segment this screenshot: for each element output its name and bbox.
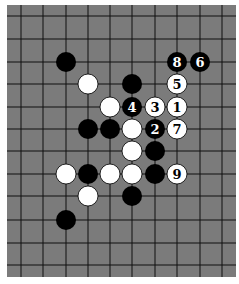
white-stone: 5 <box>167 74 187 94</box>
black-stone-circle <box>78 164 98 184</box>
black-stone: 4 <box>122 97 142 117</box>
black-stone-circle <box>56 210 76 230</box>
black-stone: 6 <box>190 52 210 72</box>
move-number-label: 4 <box>127 100 136 115</box>
move-number-label: 7 <box>172 122 181 137</box>
black-stone <box>145 141 165 161</box>
board-background <box>7 5 236 277</box>
move-number-label: 2 <box>150 122 159 137</box>
white-stone: 3 <box>145 97 165 117</box>
black-stone <box>122 74 142 94</box>
go-board: 865431279 <box>0 0 239 284</box>
black-stone-circle <box>100 119 120 139</box>
white-stone-circle <box>56 164 76 184</box>
black-stone-circle <box>145 164 165 184</box>
black-stone <box>78 119 98 139</box>
white-stone-circle <box>122 164 142 184</box>
black-stone <box>56 52 76 72</box>
black-stone: 8 <box>167 52 187 72</box>
move-number-label: 9 <box>172 167 181 182</box>
white-stone: 9 <box>167 164 187 184</box>
move-number-label: 8 <box>172 55 181 70</box>
white-stone <box>56 164 76 184</box>
black-stone <box>122 186 142 206</box>
black-stone <box>78 164 98 184</box>
black-stone <box>145 164 165 184</box>
move-number-label: 6 <box>195 55 204 70</box>
white-stone <box>122 141 142 161</box>
white-stone: 1 <box>167 97 187 117</box>
black-stone-circle <box>122 74 142 94</box>
black-stone <box>56 210 76 230</box>
black-stone-circle <box>56 52 76 72</box>
black-stone: 2 <box>145 119 165 139</box>
white-stone-circle <box>78 186 98 206</box>
white-stone-circle <box>78 74 98 94</box>
white-stone <box>122 119 142 139</box>
white-stone <box>78 186 98 206</box>
move-number-label: 1 <box>172 100 181 115</box>
white-stone-circle <box>100 97 120 117</box>
move-number-label: 3 <box>150 100 159 115</box>
white-stone <box>100 164 120 184</box>
white-stone: 7 <box>167 119 187 139</box>
black-stone <box>100 119 120 139</box>
black-stone-circle <box>122 186 142 206</box>
black-stone-circle <box>145 141 165 161</box>
move-number-label: 5 <box>172 77 181 92</box>
white-stone-circle <box>122 119 142 139</box>
white-stone <box>100 97 120 117</box>
white-stone <box>78 74 98 94</box>
black-stone-circle <box>78 119 98 139</box>
white-stone <box>122 164 142 184</box>
white-stone-circle <box>122 141 142 161</box>
white-stone-circle <box>100 164 120 184</box>
